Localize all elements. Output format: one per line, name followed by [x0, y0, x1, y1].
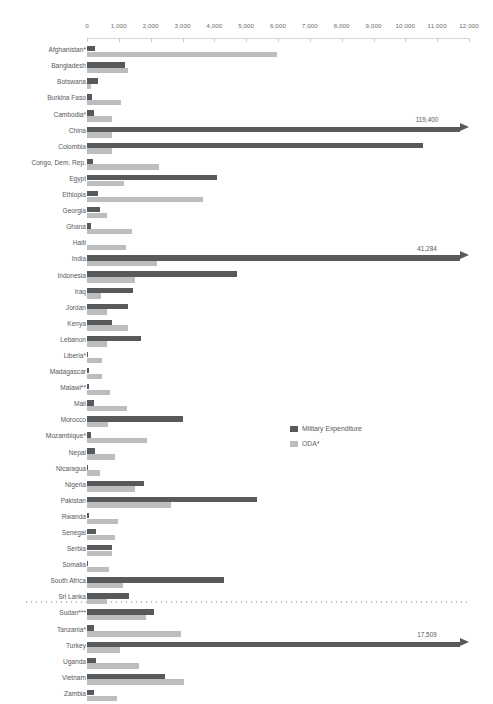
chart-row: Vietnam — [0, 672, 493, 688]
bar-military — [87, 448, 95, 453]
row-bars — [87, 495, 493, 511]
axis-tick-mark — [310, 38, 311, 42]
bar-military — [87, 94, 92, 99]
bar-oda — [87, 631, 181, 636]
row-bars — [87, 656, 493, 672]
bar-military — [87, 368, 89, 373]
bar-oda — [87, 164, 159, 169]
bar-oda — [87, 696, 117, 701]
chart-row: Senegal — [0, 527, 493, 543]
category-label: Haiti — [0, 239, 86, 246]
bar-oda — [87, 52, 277, 57]
bar-military — [87, 593, 129, 598]
row-bars — [87, 607, 493, 623]
axis-tick-mark — [183, 38, 184, 42]
bar-military — [87, 336, 141, 341]
chart-row: Rwanda — [0, 511, 493, 527]
category-label: Iraq — [0, 288, 86, 295]
bar-military — [87, 674, 165, 679]
category-label: Madagascar — [0, 368, 86, 375]
axis-tick-mark — [214, 38, 215, 42]
chart-row: Bangladesh — [0, 60, 493, 76]
overflow-arrowhead — [460, 638, 469, 646]
category-label: India — [0, 255, 86, 262]
bar-oda — [87, 406, 127, 411]
chart-row: Indonesia — [0, 269, 493, 285]
category-label: Sudan*** — [0, 609, 86, 616]
chart-row: Congo, Dem. Rep. — [0, 157, 493, 173]
row-bars — [87, 591, 493, 607]
axis-tick-mark — [405, 38, 406, 42]
chart-row: Malawi** — [0, 382, 493, 398]
row-bars — [87, 205, 493, 221]
axis-tick-mark — [119, 38, 120, 42]
bar-oda — [87, 502, 171, 507]
category-label: South Africa — [0, 577, 86, 584]
chart-row: Sudan*** — [0, 607, 493, 623]
bar-military — [87, 642, 460, 647]
axis-tick-label: 6,000 — [270, 22, 286, 29]
bar-military — [87, 400, 94, 405]
bar-military — [87, 207, 100, 212]
category-label: Morocco — [0, 416, 86, 423]
chart-row: Ghana — [0, 221, 493, 237]
axis-tick-label: 3,000 — [175, 22, 191, 29]
category-label: Mozambique* — [0, 432, 86, 439]
category-label: Botswana — [0, 78, 86, 85]
category-label: Vietnam — [0, 674, 86, 681]
row-bars — [87, 318, 493, 334]
category-label: Nepal — [0, 449, 86, 456]
bar-oda — [87, 679, 184, 684]
chart-row: Uganda — [0, 656, 493, 672]
row-bars — [87, 543, 493, 559]
overflow-value-label: 41,284 — [417, 245, 437, 252]
row-bars — [87, 76, 493, 92]
chart-row: Sri Lanka — [0, 591, 493, 607]
bar-military — [87, 223, 91, 228]
footer-dotted-divider — [24, 601, 469, 603]
bar-oda — [87, 325, 128, 330]
bar-oda — [87, 229, 132, 234]
category-label: Burkina Faso — [0, 94, 86, 101]
legend-item-oda: ODA* — [290, 440, 362, 448]
bar-military — [87, 46, 95, 51]
bar-military — [87, 513, 89, 518]
category-label: Liberia* — [0, 352, 86, 359]
axis-tick-label: 1,000 — [111, 22, 127, 29]
axis-tick-label: 12,000 — [459, 22, 479, 29]
bar-oda — [87, 470, 100, 475]
bar-oda — [87, 277, 135, 282]
chart-row: Afghanistan* — [0, 44, 493, 60]
legend-swatch-oda — [290, 441, 298, 447]
bar-military — [87, 175, 217, 180]
overflow-arrowhead — [460, 123, 469, 131]
chart-row: Georgia — [0, 205, 493, 221]
bar-oda — [87, 293, 101, 298]
chart-row: Morocco — [0, 414, 493, 430]
bar-military — [87, 416, 183, 421]
chart-row: Lebanon — [0, 334, 493, 350]
chart-row: Iraq — [0, 285, 493, 301]
bar-military — [87, 255, 460, 260]
category-label: Indonesia — [0, 272, 86, 279]
row-bars: 17,509 — [87, 639, 493, 655]
chart-row: Nicaragua — [0, 462, 493, 478]
bar-oda — [87, 100, 121, 105]
axis-tick-mark — [87, 38, 88, 42]
row-bars — [87, 92, 493, 108]
category-label: Jordan — [0, 304, 86, 311]
row-bars — [87, 334, 493, 350]
bar-military — [87, 561, 88, 566]
bar-oda — [87, 358, 102, 363]
bar-oda — [87, 341, 107, 346]
axis-tick-mark — [342, 38, 343, 42]
bar-military — [87, 320, 112, 325]
row-bars — [87, 285, 493, 301]
bar-military — [87, 159, 93, 164]
bar-military — [87, 62, 125, 67]
row-bars — [87, 302, 493, 318]
row-bars — [87, 511, 493, 527]
legend-label-oda: ODA* — [302, 440, 319, 448]
axis-tick-mark — [374, 38, 375, 42]
